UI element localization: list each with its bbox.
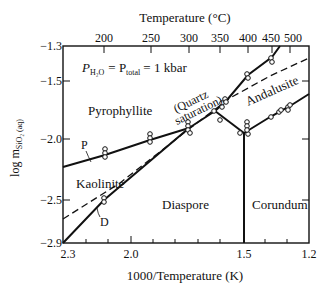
- data-points: [102, 56, 293, 205]
- label-corundum: Corundum: [252, 197, 308, 212]
- y-axis-title: log mSiO₂ (aq): [8, 119, 24, 177]
- top-ticks: [104, 46, 290, 53]
- svg-text:200: 200: [95, 31, 113, 45]
- bottom-axis-title: 1000/Temperature (K): [127, 268, 243, 283]
- svg-text:log mSiO₂ (aq): log mSiO₂ (aq): [8, 119, 24, 177]
- svg-text:−1.5: −1.5: [40, 74, 62, 88]
- svg-text:2.0: 2.0: [124, 247, 139, 261]
- bottom-ticks: [86, 236, 287, 243]
- svg-text:500: 500: [284, 31, 302, 45]
- svg-text:450: 450: [262, 31, 280, 45]
- svg-text:−2.0: −2.0: [40, 132, 62, 146]
- field-labels: Pyrophyllite Kaolinite Diaspore Corundum…: [76, 72, 308, 229]
- pressure-annotation: PH₂O= Ptotal= 1 kbar: [81, 60, 187, 77]
- svg-text:1.2: 1.2: [302, 247, 317, 261]
- svg-text:2.3: 2.3: [61, 247, 76, 261]
- label-andalusite: Andalusite: [243, 72, 301, 109]
- label-P: P: [81, 138, 88, 152]
- left-tick-labels: −1.3 −1.5 −2.0 −2.5 −2.9: [40, 39, 62, 250]
- svg-text:250: 250: [142, 31, 160, 45]
- label-kaolinite: Kaolinite: [76, 176, 125, 191]
- label-pyrophyllite: Pyrophyllite: [88, 103, 153, 118]
- svg-text:400: 400: [239, 31, 257, 45]
- label-D: D: [100, 215, 109, 229]
- svg-text:300: 300: [180, 31, 198, 45]
- svg-text:−1.3: −1.3: [40, 39, 62, 53]
- svg-text:1.5: 1.5: [237, 247, 252, 261]
- left-ticks: [63, 81, 70, 200]
- phase-diagram: 200 250 300 350 400 450 500 2.3 2.0 1.5 …: [0, 0, 331, 295]
- svg-text:350: 350: [211, 31, 229, 45]
- top-tick-labels: 200 250 300 350 400 450 500: [95, 31, 302, 45]
- svg-text:−2.9: −2.9: [40, 236, 62, 250]
- top-axis-title: Temperature (°C): [139, 10, 230, 25]
- svg-text:−2.5: −2.5: [40, 193, 62, 207]
- label-diaspore: Diaspore: [162, 197, 209, 212]
- bottom-tick-labels: 2.3 2.0 1.5 1.2: [61, 247, 317, 261]
